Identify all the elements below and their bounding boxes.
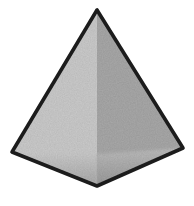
pyramid-figure [0, 0, 194, 206]
pyramid-stage [0, 0, 194, 206]
